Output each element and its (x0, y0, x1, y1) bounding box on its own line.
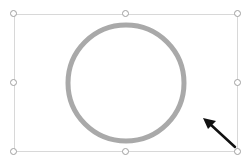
circle-shape[interactable] (68, 25, 184, 141)
arrow-cursor-icon (203, 118, 235, 147)
drawing-canvas[interactable] (0, 0, 252, 165)
